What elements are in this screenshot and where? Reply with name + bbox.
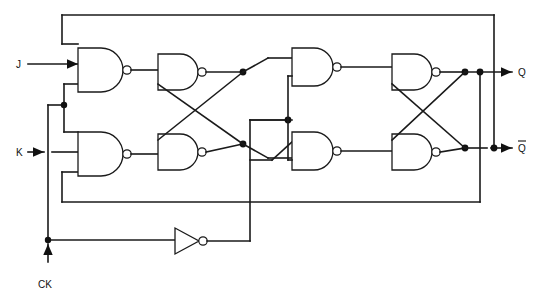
wire-output-qbar (465, 145, 512, 152)
label-k: K (16, 147, 23, 158)
junction-ck-master (61, 102, 67, 108)
wire-output-q (465, 69, 512, 76)
junction-ck-inverter (45, 237, 51, 243)
label-ck: CK (38, 279, 52, 290)
label-j: J (16, 59, 21, 70)
gate-nand7 (392, 54, 440, 90)
gate-nand8 (392, 134, 440, 170)
gate-nand1 (78, 48, 131, 92)
gate-nand2 (78, 132, 131, 176)
junction-q-tap (477, 69, 484, 76)
gate-clock-inverter (175, 228, 207, 254)
label-qbar: Q (518, 143, 526, 154)
wire-inverted-clock (207, 120, 292, 241)
label-q: Q (518, 67, 526, 78)
gate-nand6 (292, 132, 341, 170)
logic-circuit-diagram: J K CK (0, 0, 543, 297)
gate-nand4 (158, 134, 206, 170)
gate-nand3 (158, 54, 206, 90)
schematic-canvas: J K CK (0, 0, 543, 297)
gate-nand5 (292, 48, 341, 86)
junction-qbar-tap (491, 145, 498, 152)
